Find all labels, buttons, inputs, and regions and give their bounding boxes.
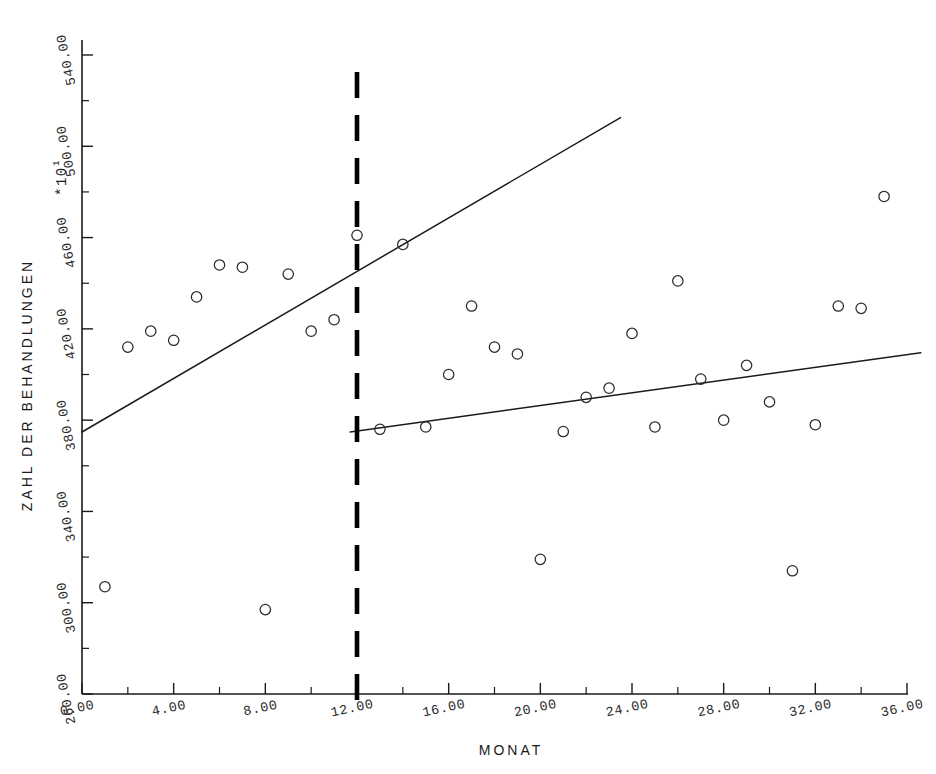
data-point-marker xyxy=(764,397,774,407)
y-tick-label: 540.00 xyxy=(54,33,80,87)
data-point-marker xyxy=(443,369,453,379)
y-tick-label: 340.00 xyxy=(54,489,80,543)
x-tick-label: 32.00 xyxy=(788,697,834,721)
data-point-marker xyxy=(329,315,339,325)
data-point-marker xyxy=(856,303,866,313)
y-tick-label: 260.00 xyxy=(54,672,80,726)
y-axis-exponent-label: *10 xyxy=(54,166,70,196)
regression-lines xyxy=(82,118,921,432)
x-tick-label: 28.00 xyxy=(696,697,742,721)
data-point-marker xyxy=(581,392,591,402)
data-point-marker xyxy=(191,292,201,302)
y-tick-label: 460.00 xyxy=(54,215,80,269)
data-point-marker xyxy=(123,342,133,352)
x-tick-label: 8.00 xyxy=(242,698,279,720)
data-point-marker xyxy=(352,230,362,240)
data-point-marker xyxy=(535,554,545,564)
data-point-marker xyxy=(146,326,156,336)
data-point-marker xyxy=(168,335,178,345)
data-point-marker xyxy=(558,426,568,436)
chart-canvas: 0.004.008.0012.0016.0020.0024.0028.0032.… xyxy=(0,0,936,774)
x-tick-label: 36.00 xyxy=(879,697,925,721)
scatter-chart: 0.004.008.0012.0016.0020.0024.0028.0032.… xyxy=(0,0,936,774)
data-point-marker xyxy=(421,422,431,432)
y-axis-ticks xyxy=(82,55,93,694)
data-point-marker xyxy=(810,420,820,430)
data-point-marker xyxy=(214,260,224,270)
y-tick-label: 420.00 xyxy=(54,306,80,360)
data-point-marker xyxy=(260,604,270,614)
x-tick-label: 4.00 xyxy=(150,698,187,720)
data-point-marker xyxy=(306,326,316,336)
data-point-marker xyxy=(833,301,843,311)
data-point-marker xyxy=(604,383,614,393)
data-point-marker xyxy=(466,301,476,311)
post-regression-line xyxy=(350,353,921,432)
data-point-marker xyxy=(787,566,797,576)
y-axis-title: ZAHL DER BEHANDLUNGEN xyxy=(19,259,35,511)
x-axis-ticks xyxy=(82,683,907,694)
x-tick-label: 20.00 xyxy=(513,697,559,721)
data-point-marker xyxy=(100,582,110,592)
data-point-marker xyxy=(718,415,728,425)
data-point-marker xyxy=(512,349,522,359)
x-tick-label: 24.00 xyxy=(604,697,650,721)
data-point-marker xyxy=(375,424,385,434)
data-point-marker xyxy=(489,342,499,352)
data-point-marker xyxy=(650,422,660,432)
pre-regression-line xyxy=(82,118,621,432)
x-tick-label: 16.00 xyxy=(421,697,467,721)
x-tick-label: 12.00 xyxy=(329,697,375,721)
axes xyxy=(82,40,908,694)
data-point-marker xyxy=(237,262,247,272)
y-axis-exponent-superscript: 1 xyxy=(52,161,62,166)
data-point-marker xyxy=(741,360,751,370)
x-axis-title: MONAT xyxy=(479,742,544,758)
data-point-marker xyxy=(627,328,637,338)
data-point-marker xyxy=(879,191,889,201)
data-points xyxy=(100,191,890,614)
x-axis-tick-labels: 0.004.008.0012.0016.0020.0024.0028.0032.… xyxy=(59,697,925,721)
y-tick-label: 300.00 xyxy=(54,580,80,634)
data-point-marker xyxy=(283,269,293,279)
y-tick-label: 380.00 xyxy=(54,398,80,452)
y-axis-tick-labels: 260.00300.00340.00380.00420.00460.00500.… xyxy=(54,33,80,726)
data-point-marker xyxy=(673,276,683,286)
